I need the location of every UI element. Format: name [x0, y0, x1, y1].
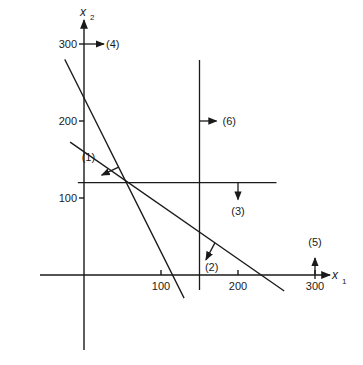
- constraint-label-5: (5): [308, 236, 321, 248]
- x1-tick-label: 200: [229, 280, 247, 292]
- labels: x1x2100200300100200300(1)(2)(3)(4)(5)(6): [59, 5, 347, 292]
- x1-axis-subscript: 1: [342, 277, 347, 286]
- axes: [40, 20, 330, 350]
- constraint-lines: [65, 44, 315, 298]
- constraint-label-2: (2): [205, 261, 218, 273]
- lp-diagram: x1x2100200300100200300(1)(2)(3)(4)(5)(6): [0, 0, 363, 365]
- constraint-label-3: (3): [231, 205, 244, 217]
- x2-axis-label: x: [79, 5, 87, 19]
- constraint-label-4: (4): [106, 38, 119, 50]
- x1-tick-label: 300: [306, 280, 324, 292]
- constraint-line-2: [70, 142, 284, 291]
- constraint-line-1: [65, 59, 184, 298]
- x1-tick-label: 100: [152, 280, 170, 292]
- x2-tick-label: 300: [59, 38, 77, 50]
- constraint-label-1: (1): [82, 151, 95, 163]
- constraint-arrow-2: [206, 243, 215, 260]
- x2-tick-label: 100: [59, 192, 77, 204]
- constraint-label-6: (6): [223, 115, 236, 127]
- x2-tick-label: 200: [59, 115, 77, 127]
- x2-axis-subscript: 2: [90, 13, 95, 22]
- x1-axis-label: x: [331, 268, 339, 282]
